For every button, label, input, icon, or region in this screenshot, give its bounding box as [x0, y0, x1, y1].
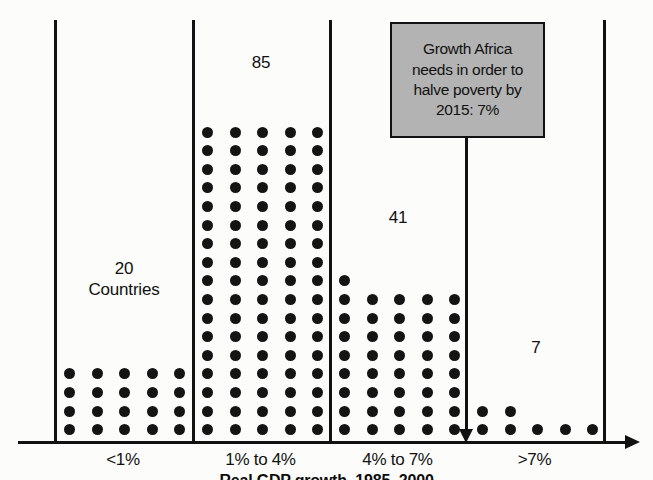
dot-unit: [202, 313, 213, 324]
dot-unit: [230, 368, 241, 379]
dot-unit: [312, 201, 323, 212]
dot-unit: [119, 406, 130, 417]
dot-unit: [422, 424, 433, 435]
dot-unit: [257, 164, 268, 175]
dot-row: [339, 383, 477, 402]
dot-row: [339, 346, 477, 365]
dot-unit: [312, 145, 323, 156]
dot-stack-lt1pct: [64, 365, 202, 439]
dot-row: [202, 160, 340, 179]
category-label-1to4pct: 1% to 4%: [192, 450, 329, 470]
dot-row: [339, 272, 367, 291]
dot-unit: [147, 387, 158, 398]
dot-unit: [257, 406, 268, 417]
dot-unit: [119, 368, 130, 379]
dot-unit: [257, 145, 268, 156]
dot-unit: [257, 201, 268, 212]
dot-row: [64, 365, 202, 384]
dot-unit: [230, 313, 241, 324]
dot-unit: [394, 294, 405, 305]
dot-unit: [174, 368, 185, 379]
dot-unit: [285, 145, 296, 156]
dot-unit: [312, 275, 323, 286]
dot-unit: [202, 145, 213, 156]
dot-row: [477, 420, 615, 439]
dot-unit: [202, 182, 213, 193]
dot-unit: [312, 127, 323, 138]
dot-unit: [367, 406, 378, 417]
dot-row: [202, 290, 340, 309]
dot-unit: [477, 424, 488, 435]
dot-row: [202, 402, 340, 421]
dot-unit: [312, 238, 323, 249]
dot-unit: [202, 127, 213, 138]
dot-unit: [422, 368, 433, 379]
dot-unit: [367, 331, 378, 342]
dot-row: [339, 309, 477, 328]
dot-row: [202, 216, 340, 235]
dot-unit: [202, 238, 213, 249]
dot-unit: [285, 350, 296, 361]
dot-unit: [202, 387, 213, 398]
dot-unit: [230, 201, 241, 212]
dot-unit: [230, 145, 241, 156]
dot-unit: [230, 182, 241, 193]
annotation-line-2: needs in order to: [412, 61, 523, 78]
dot-unit: [285, 275, 296, 286]
dot-unit: [312, 406, 323, 417]
dot-row: [339, 402, 477, 421]
dot-row: [339, 290, 477, 309]
dot-unit: [64, 368, 75, 379]
dot-unit: [312, 257, 323, 268]
dot-unit: [285, 238, 296, 249]
dot-unit: [257, 257, 268, 268]
dot-unit: [64, 424, 75, 435]
dot-unit: [394, 313, 405, 324]
dot-unit: [339, 406, 350, 417]
dot-unit: [285, 164, 296, 175]
dot-unit: [202, 331, 213, 342]
dot-stack-1to4pct: [202, 123, 340, 439]
dot-row: [339, 420, 477, 439]
dot-unit: [285, 424, 296, 435]
dot-unit: [257, 350, 268, 361]
dot-unit: [312, 368, 323, 379]
dot-unit: [147, 368, 158, 379]
dot-unit: [312, 164, 323, 175]
dot-unit: [285, 220, 296, 231]
dot-unit: [202, 164, 213, 175]
dot-unit: [285, 182, 296, 193]
dot-unit: [174, 406, 185, 417]
dot-unit: [92, 368, 103, 379]
dot-unit: [339, 313, 350, 324]
value-label-4to7pct: 41: [339, 207, 457, 228]
x-axis-line: [18, 441, 630, 444]
dot-unit: [257, 387, 268, 398]
dot-unit: [285, 406, 296, 417]
dot-unit: [422, 350, 433, 361]
dot-unit: [339, 424, 350, 435]
dot-unit: [202, 406, 213, 417]
dot-unit: [312, 387, 323, 398]
category-label-gt7pct: >7%: [466, 450, 603, 470]
dot-unit: [449, 294, 460, 305]
dot-unit: [339, 350, 350, 361]
dot-unit: [147, 424, 158, 435]
dot-stack-4to7pct: [339, 272, 477, 439]
dot-unit: [312, 350, 323, 361]
dot-unit: [312, 313, 323, 324]
dot-unit: [64, 387, 75, 398]
dot-unit: [257, 331, 268, 342]
dot-unit: [285, 294, 296, 305]
dot-unit: [367, 424, 378, 435]
dot-unit: [285, 127, 296, 138]
dot-unit: [394, 350, 405, 361]
dot-unit: [230, 331, 241, 342]
dot-unit: [230, 275, 241, 286]
dot-unit: [230, 164, 241, 175]
annotation-line-1: Growth Africa: [423, 40, 512, 57]
dot-unit: [202, 350, 213, 361]
category-label-4to7pct: 4% to 7%: [329, 450, 466, 470]
dot-unit: [285, 313, 296, 324]
dot-unit: [394, 424, 405, 435]
